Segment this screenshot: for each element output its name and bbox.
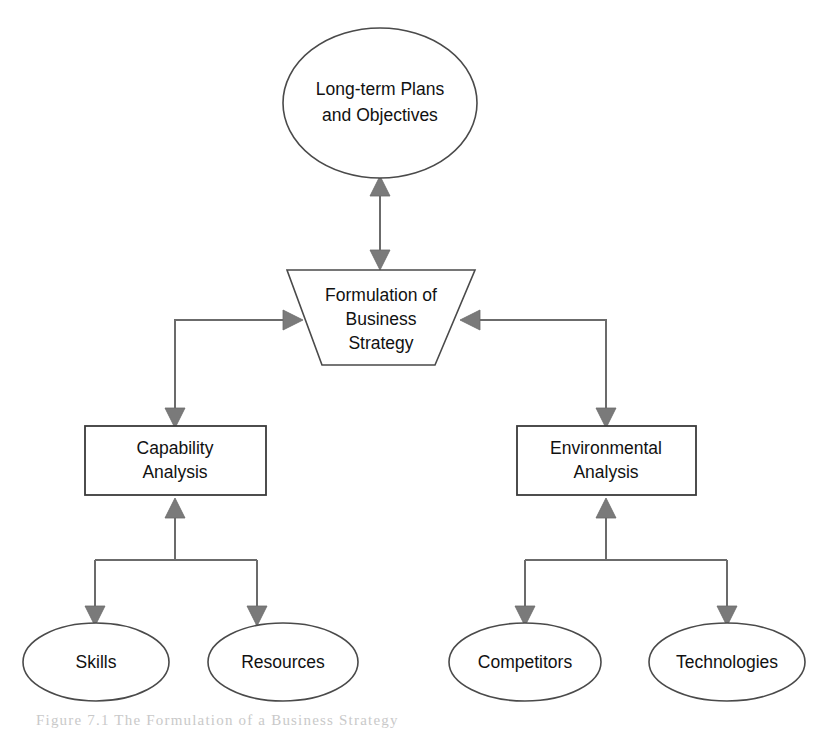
node-technologies[interactable]: Technologies xyxy=(649,623,805,701)
environmental-label-line2: Analysis xyxy=(573,462,638,482)
arrow-head-down-formulation xyxy=(370,250,390,270)
node-competitors[interactable]: Competitors xyxy=(449,623,601,701)
objectives-label-line1: Long-term Plans xyxy=(316,79,445,99)
edge-formulation-objectives xyxy=(370,176,390,270)
capability-label-line2: Analysis xyxy=(142,462,207,482)
resources-label: Resources xyxy=(241,652,325,672)
node-capability[interactable]: Capability Analysis xyxy=(85,426,266,495)
arrow-head-up-capability xyxy=(165,498,185,518)
skills-label: Skills xyxy=(76,652,117,672)
edge-environmental-children xyxy=(515,498,737,626)
formulation-label-line3: Strategy xyxy=(348,333,413,353)
arrow-head-left-formulation xyxy=(460,310,480,330)
formulation-label-line2: Business xyxy=(345,309,416,329)
capability-rect-shape xyxy=(85,426,266,495)
edge-line-environmental-formulation xyxy=(480,320,606,420)
arrow-head-right-formulation xyxy=(283,310,303,330)
competitors-label: Competitors xyxy=(478,652,573,672)
edge-line-capability-formulation xyxy=(175,320,285,420)
figure-caption: Figure 7.1 The Formulation of a Business… xyxy=(36,712,399,729)
node-resources[interactable]: Resources xyxy=(208,623,358,701)
figure-canvas: Long-term Plans and Objectives Formulati… xyxy=(0,0,825,730)
arrow-head-down-capability xyxy=(165,408,185,428)
node-skills[interactable]: Skills xyxy=(23,623,169,701)
environmental-rect-shape xyxy=(517,426,696,495)
arrow-head-down-resources xyxy=(247,606,267,626)
edge-capability-formulation xyxy=(165,310,303,428)
node-formulation[interactable]: Formulation of Business Strategy xyxy=(287,270,475,365)
objectives-label-line2: and Objectives xyxy=(322,105,438,125)
objectives-ellipse-shape xyxy=(283,28,477,178)
edge-capability-children xyxy=(85,498,267,626)
node-environmental[interactable]: Environmental Analysis xyxy=(517,426,696,495)
arrow-head-up-environmental xyxy=(596,498,616,518)
node-objectives[interactable]: Long-term Plans and Objectives xyxy=(283,28,477,178)
capability-label-line1: Capability xyxy=(137,438,214,458)
business-strategy-diagram: Long-term Plans and Objectives Formulati… xyxy=(0,0,825,730)
arrow-head-up-objectives xyxy=(370,176,390,196)
formulation-label-line1: Formulation of xyxy=(325,285,437,305)
environmental-label-line1: Environmental xyxy=(550,438,662,458)
edge-environmental-formulation xyxy=(460,310,616,428)
arrow-head-down-environmental xyxy=(596,408,616,428)
technologies-label: Technologies xyxy=(676,652,778,672)
